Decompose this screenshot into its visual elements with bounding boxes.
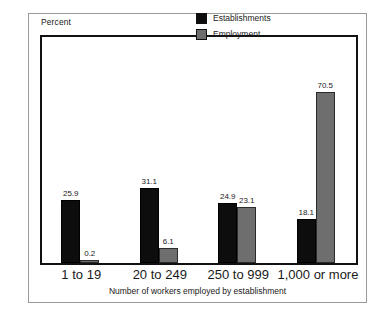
legend-swatch-icon xyxy=(196,29,207,40)
x-axis-title: Number of workers employed by establishm… xyxy=(28,286,367,296)
bar-establishments-1 xyxy=(140,188,159,263)
bar-value-label: 23.1 xyxy=(233,196,260,206)
bar-group: 31.16.1 xyxy=(121,37,200,263)
y-axis-caption: Percent xyxy=(41,17,71,27)
bar-value-label: 25.9 xyxy=(57,189,84,199)
bar-employment-0 xyxy=(80,260,99,263)
x-axis-tick-labels: 1 to 1920 to 249250 to 9991,000 or more xyxy=(40,266,358,286)
bar-group: 24.923.1 xyxy=(199,37,278,263)
bar-value-label: 70.5 xyxy=(312,81,339,91)
bar-employment-1 xyxy=(159,248,178,263)
legend-item-establishments: Establishments xyxy=(196,10,314,26)
plot-frame: 25.90.231.16.124.923.118.170.5 xyxy=(40,35,358,265)
legend-label: Employment xyxy=(213,29,260,39)
bar-employment-2 xyxy=(237,207,256,263)
legend-swatch-icon xyxy=(196,13,207,24)
bar-value-label: 31.1 xyxy=(136,177,163,187)
legend-label: Establishments xyxy=(213,13,271,23)
x-tick-label-1: 20 to 249 xyxy=(121,266,200,284)
chart-legend: EstablishmentsEmployment xyxy=(196,10,314,42)
x-tick-label-3: 1,000 or more xyxy=(278,266,357,284)
x-tick-label-0: 1 to 19 xyxy=(42,266,121,284)
bar-group: 18.170.5 xyxy=(278,37,357,263)
bar-value-label: 0.2 xyxy=(76,249,103,259)
plot-area: 25.90.231.16.124.923.118.170.5 xyxy=(42,37,356,263)
chart-figure: Percent 25.90.231.16.124.923.118.170.5 E… xyxy=(0,0,382,320)
bar-establishments-2 xyxy=(218,203,237,263)
bar-establishments-3 xyxy=(297,219,316,263)
bar-group: 25.90.2 xyxy=(42,37,121,263)
legend-item-employment: Employment xyxy=(196,26,314,42)
x-tick-label-2: 250 to 999 xyxy=(199,266,278,284)
bar-employment-3 xyxy=(316,92,335,263)
bar-value-label: 6.1 xyxy=(155,237,182,247)
